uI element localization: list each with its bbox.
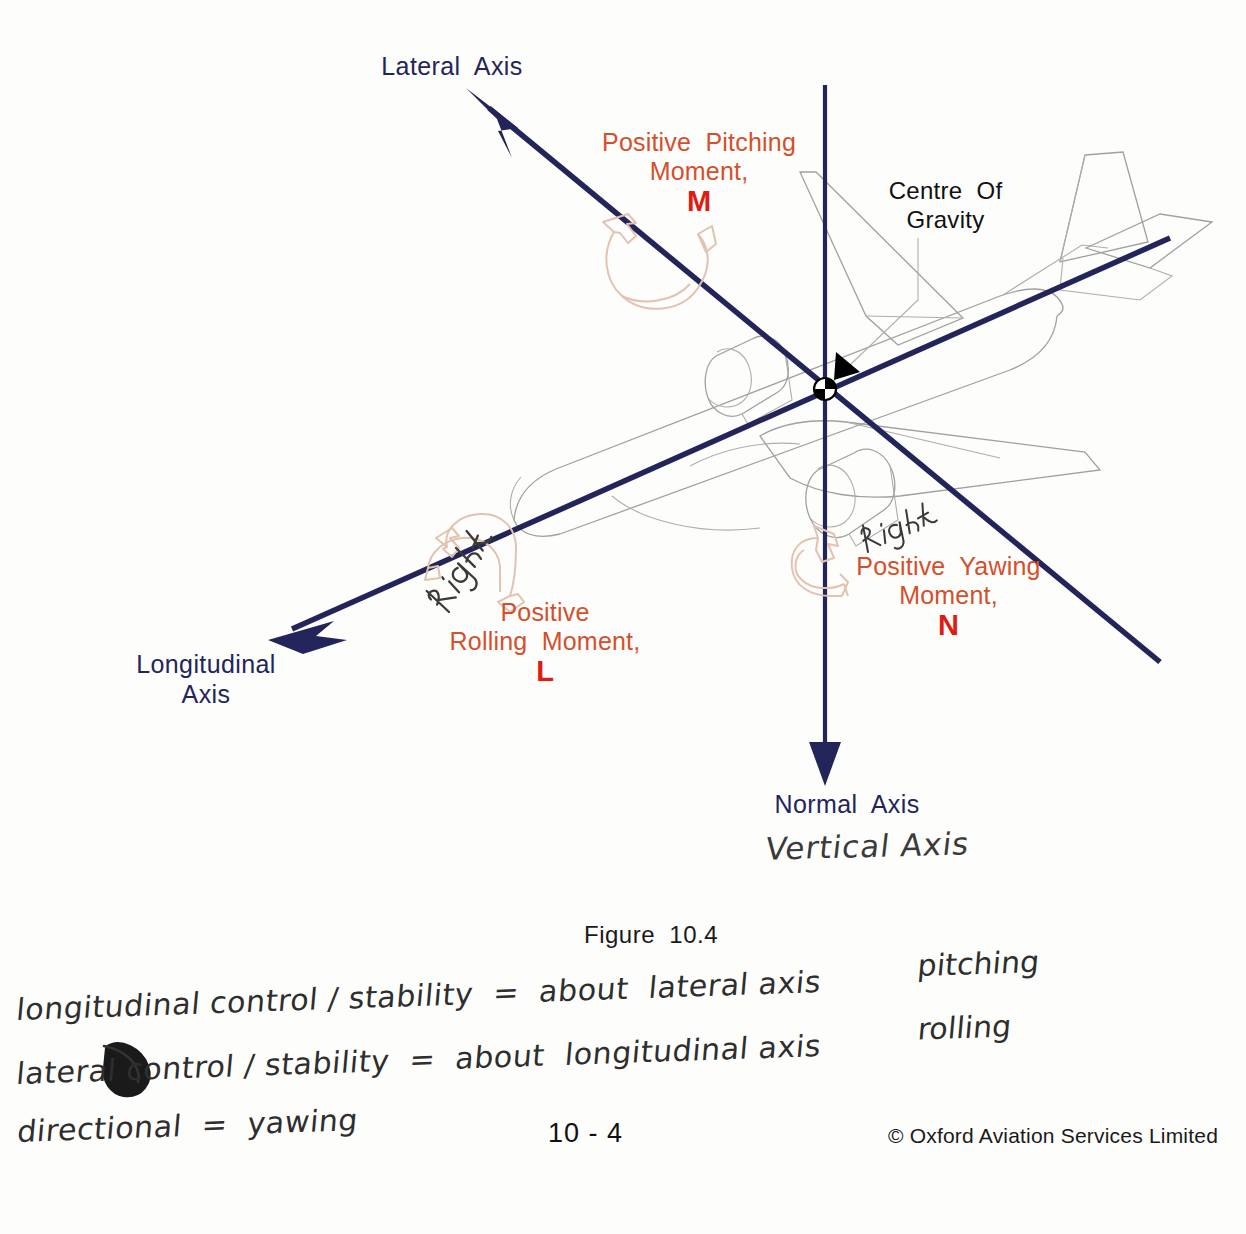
handwritten-note-right-1: pitching	[916, 944, 1041, 983]
centre-of-gravity-marker	[814, 378, 836, 400]
rolling-moment-symbol: L	[430, 655, 660, 687]
page-number: 10 - 4	[548, 1118, 708, 1148]
longitudinal-axis-label-line2: Axis	[106, 680, 306, 708]
cg-label-line2: Gravity	[838, 207, 1053, 234]
copyright-notice: © Oxford Aviation Services Limited	[888, 1124, 1246, 1148]
handwritten-note-right-2: rolling	[916, 1008, 1013, 1046]
handwritten-right-yaw	[858, 499, 941, 559]
lateral-axis-arrowhead	[466, 88, 518, 158]
lateral-axis-label: Lateral Axis	[352, 52, 552, 80]
pitching-moment-label-line2: Moment,	[584, 157, 814, 185]
cg-label-line1: Centre Of	[838, 178, 1053, 205]
rolling-moment-label-line2: Rolling Moment,	[430, 627, 660, 655]
yawing-moment-label-line1: Positive Yawing	[836, 552, 1061, 580]
pitching-moment-label-line1: Positive Pitching	[584, 128, 814, 156]
figure-caption: Figure 10.4	[584, 922, 824, 949]
rolling-moment-label-line1: Positive	[430, 598, 660, 626]
normal-axis-label: Normal Axis	[742, 790, 952, 818]
pitching-moment-arrow	[603, 214, 716, 309]
yawing-moment-symbol: N	[836, 609, 1061, 641]
normal-axis-arrowhead	[809, 742, 841, 786]
pitching-moment-symbol: M	[584, 185, 814, 217]
handwritten-vertical-axis: Vertical Axis	[764, 825, 972, 866]
yawing-moment-label-line2: Moment,	[836, 581, 1061, 609]
longitudinal-axis-label-line1: Longitudinal	[106, 650, 306, 678]
moment-arrows-group	[425, 214, 848, 612]
figure-page: .ac { fill: none; stroke: #a0a0a0; strok…	[0, 0, 1246, 1234]
